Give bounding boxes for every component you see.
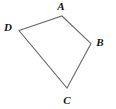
vertex-label-a: A xyxy=(57,1,64,12)
quadrilateral-outline xyxy=(19,16,91,88)
geometry-figure: A B C D xyxy=(0,0,116,109)
vertex-label-b: B xyxy=(96,37,103,48)
quadrilateral-shape xyxy=(0,0,116,109)
vertex-label-c: C xyxy=(63,95,70,106)
vertex-label-d: D xyxy=(4,22,12,33)
